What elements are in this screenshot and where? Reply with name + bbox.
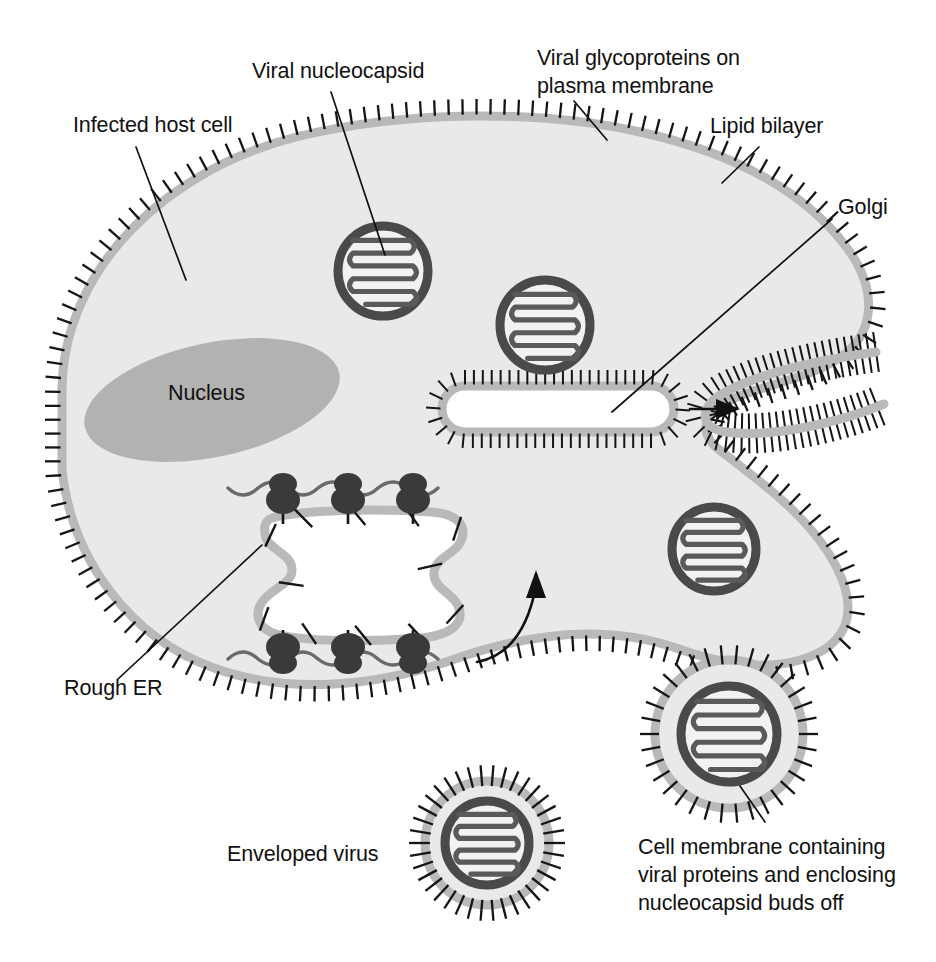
- label-viral-glycoproteins-line2: plasma membrane: [537, 74, 714, 98]
- golgi-cisterna-left: [426, 370, 690, 448]
- enveloped-virus: [409, 765, 565, 920]
- label-viral-nucleocapsid: Viral nucleocapsid: [252, 59, 424, 83]
- nucleocapsid-2: [500, 280, 590, 370]
- ribosome-small-subunit: [269, 652, 297, 674]
- label-golgi: Golgi: [838, 195, 888, 219]
- ribosome-small-subunit: [334, 473, 362, 495]
- label-nucleus: Nucleus: [168, 381, 245, 405]
- figure-root: Infected host cell Viral nucleocapsid Vi…: [0, 0, 936, 962]
- nucleocapsid-1: [338, 226, 428, 316]
- label-infected-host-cell: Infected host cell: [73, 113, 233, 137]
- label-viral-glycoproteins-line1: Viral glycoproteins on: [537, 46, 740, 70]
- label-enveloped-virus: Enveloped virus: [227, 842, 378, 866]
- golgi-left-lumen: [442, 386, 674, 432]
- label-rough-er: Rough ER: [64, 676, 162, 700]
- bud-nucleocapsid: [681, 686, 777, 782]
- label-budding-caption-line2: viral proteins and enclosing: [638, 863, 896, 887]
- virion-nucleocapsid: [445, 801, 529, 885]
- label-budding-caption-line3: nucleocapsid buds off: [638, 891, 844, 915]
- ribosome-small-subunit: [399, 473, 427, 495]
- label-lipid-bilayer: Lipid bilayer: [710, 114, 823, 138]
- virion-inner-nucleocapsid: [445, 801, 529, 885]
- ribosome-small-subunit: [399, 652, 427, 674]
- bud-inner-nucleocapsid: [681, 686, 777, 782]
- nucleocapsid-3: [672, 507, 756, 591]
- ribosome-small-subunit: [334, 652, 362, 674]
- label-budding-caption-line1: Cell membrane containing: [638, 835, 885, 859]
- virus-budding-diagram: Infected host cell Viral nucleocapsid Vi…: [0, 0, 936, 962]
- ribosome-small-subunit: [269, 473, 297, 495]
- er-lumen: [258, 510, 463, 641]
